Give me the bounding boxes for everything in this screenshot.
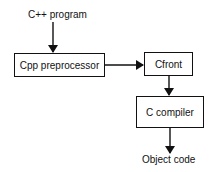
connector-arrows xyxy=(0,0,213,172)
output-label: Object code xyxy=(142,154,195,166)
input-label: C++ program xyxy=(28,9,87,21)
node-cfront: Cfront xyxy=(144,52,193,76)
node-cpp-preprocessor: Cpp preprocessor xyxy=(14,53,105,77)
node-c-compiler: C compiler xyxy=(136,96,204,128)
node-label: C compiler xyxy=(146,107,194,118)
node-label: Cpp preprocessor xyxy=(20,60,99,71)
node-label: Cfront xyxy=(155,59,182,70)
